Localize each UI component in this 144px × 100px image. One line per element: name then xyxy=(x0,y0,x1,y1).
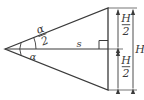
half-height-bottom-numerator: H xyxy=(120,54,131,67)
half-height-top-denominator: 2 xyxy=(122,25,130,38)
full-height-label: H xyxy=(134,43,144,56)
full-angle-label: α xyxy=(30,51,37,62)
geometry-figure: α 2 α s H 2 H 2 H xyxy=(0,0,144,100)
right-angle-square xyxy=(99,41,108,50)
half-height-bottom-denominator: 2 xyxy=(122,67,130,80)
label-half-angle: α 2 xyxy=(34,22,51,49)
half-angle-denominator: 2 xyxy=(38,34,50,49)
angle-arc-half-alpha xyxy=(34,37,36,49)
axis-distance-label: s xyxy=(76,38,81,49)
figure-canvas: α 2 α s H 2 H 2 H xyxy=(0,0,144,100)
label-half-height-top: H 2 xyxy=(120,12,131,38)
label-half-height-bottom: H 2 xyxy=(120,54,131,80)
half-height-top-numerator: H xyxy=(120,12,131,25)
right-angle-marker xyxy=(99,41,108,50)
